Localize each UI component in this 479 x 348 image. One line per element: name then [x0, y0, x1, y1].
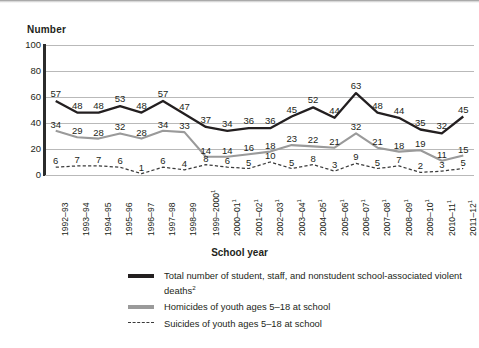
y-tick-20: 20: [15, 143, 41, 154]
value-label: 8: [302, 153, 324, 164]
value-label: 9: [345, 151, 367, 162]
x-tick-label: 1996–97: [146, 203, 156, 236]
x-tick-label: 1995–96: [124, 203, 134, 236]
x-tick-label: 2006–071: [360, 199, 371, 236]
x-tick-label: 1993–94: [81, 203, 91, 236]
value-label: 1: [131, 162, 153, 173]
value-label: 44: [324, 105, 346, 116]
value-label: 48: [88, 100, 110, 111]
value-label: 21: [366, 136, 388, 147]
legend-item-total: Total number of student, staff, and nons…: [128, 270, 468, 296]
value-label: 8: [195, 153, 217, 164]
x-tick-label: 2009–101: [424, 199, 435, 236]
value-label: 22: [302, 134, 324, 145]
value-label: 48: [66, 100, 88, 111]
value-label: 7: [66, 154, 88, 165]
value-label: 18: [388, 140, 410, 151]
y-tick-60: 60: [15, 91, 41, 102]
value-label: 18: [259, 140, 281, 151]
x-tick-label: 1997–98: [167, 203, 177, 236]
value-label: 52: [302, 94, 324, 105]
value-label: 14: [216, 145, 238, 156]
x-tick-label: 2011–121: [467, 200, 478, 236]
x-tick-label: 2008–091: [403, 199, 414, 236]
legend-item-suicides: Suicides of youth ages 5–18 at school: [128, 318, 468, 330]
value-label: 57: [45, 88, 67, 99]
x-tick-label: 1992–93: [60, 203, 70, 236]
value-label: 45: [452, 104, 474, 115]
y-axis-tick-labels: 100806040200: [9, 45, 41, 175]
legend-label-suicides: Suicides of youth ages 5–18 at school: [164, 318, 322, 329]
legend-footnote-total: 2: [192, 284, 195, 291]
legend-label-homicides: Homicides of youth ages 5–18 at school: [164, 301, 330, 312]
x-tick-label: 2010–111: [446, 200, 457, 236]
x-axis-tick-labels: 1992–931993–941994–951995–961996–971997–…: [0, 176, 479, 238]
value-label: 35: [409, 117, 431, 128]
value-label: 6: [45, 155, 67, 166]
value-label: 19: [409, 138, 431, 149]
y-tick-80: 80: [15, 65, 41, 76]
value-label: 32: [345, 121, 367, 132]
legend-label-total: Total number of student, staff, and nons…: [164, 270, 462, 296]
value-label: 34: [152, 119, 174, 130]
value-label: 32: [431, 120, 453, 131]
x-tick-label: 2000–011: [231, 199, 242, 236]
value-label: 15: [452, 144, 474, 155]
x-tick-label: 1999–20001: [210, 190, 221, 236]
x-tick-label: 1994–95: [103, 203, 113, 236]
value-label: 34: [216, 118, 238, 129]
x-tick-label: 2005–061: [339, 199, 350, 236]
x-tick-label: 1998–99: [188, 203, 198, 236]
y-axis-title: Number: [27, 24, 66, 35]
line-chart-figure: Number 100806040200 57484853485747373436…: [0, 0, 479, 348]
value-label: 2: [409, 160, 431, 171]
value-label: 36: [259, 115, 281, 126]
legend-swatch-total-line: [128, 274, 154, 278]
value-label: 6: [216, 155, 238, 166]
y-tick-40: 40: [15, 117, 41, 128]
value-label: 37: [195, 114, 217, 125]
value-label: 5: [281, 157, 303, 168]
value-label: 28: [131, 127, 153, 138]
value-label: 6: [109, 155, 131, 166]
value-label: 6: [152, 155, 174, 166]
legend-swatch-homicides-line: [128, 305, 154, 309]
value-label: 5: [366, 157, 388, 168]
value-label: 36: [238, 115, 260, 126]
value-label: 48: [366, 100, 388, 111]
legend-swatch-suicides-line: [128, 322, 154, 327]
value-label: 21: [324, 136, 346, 147]
value-label: 3: [431, 159, 453, 170]
value-label: 29: [66, 125, 88, 136]
y-tick-100: 100: [15, 39, 41, 50]
value-label: 63: [345, 80, 367, 91]
value-label: 53: [109, 93, 131, 104]
value-label: 23: [281, 133, 303, 144]
value-label: 45: [281, 104, 303, 115]
value-label: 3: [324, 159, 346, 170]
legend-item-homicides: Homicides of youth ages 5–18 at school: [128, 301, 468, 313]
value-label: 32: [109, 121, 131, 132]
value-label: 5: [238, 157, 260, 168]
value-label: 44: [388, 105, 410, 116]
value-label: 5: [452, 157, 474, 168]
value-label: 7: [388, 154, 410, 165]
x-tick-label: 2003–041: [296, 199, 307, 236]
value-label: 47: [173, 101, 195, 112]
value-label: 4: [173, 158, 195, 169]
x-axis-title: School year: [0, 247, 479, 258]
value-label: 57: [152, 88, 174, 99]
x-tick-label: 2002–031: [274, 199, 285, 236]
x-tick-label: 2004–051: [317, 199, 328, 236]
value-label: 10: [259, 150, 281, 161]
value-label: 28: [88, 127, 110, 138]
x-tick-label: 2007–081: [381, 199, 392, 236]
value-label: 16: [238, 142, 260, 153]
value-label: 33: [173, 120, 195, 131]
value-label: 34: [45, 119, 67, 130]
value-label: 48: [131, 100, 153, 111]
value-label: 11: [431, 149, 453, 160]
x-tick-label: 2001–021: [253, 199, 264, 236]
chart-legend: Total number of student, staff, and nons…: [128, 270, 468, 334]
value-label: 7: [88, 154, 110, 165]
